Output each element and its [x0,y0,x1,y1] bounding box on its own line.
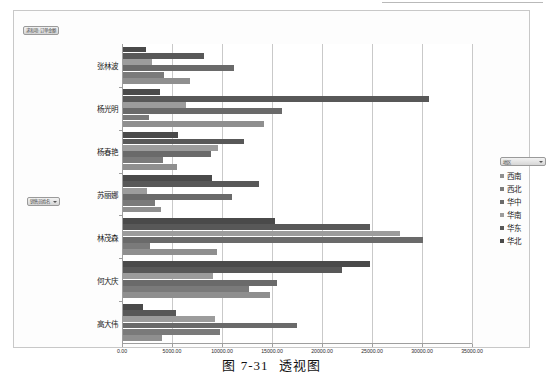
pivot-legend-field-label: 地区 [503,159,511,165]
bar[interactable] [122,72,164,78]
bar[interactable] [122,78,190,84]
legend-swatch-icon [500,213,504,217]
bar[interactable] [122,53,204,59]
gridline [472,44,473,344]
bar[interactable] [122,59,152,65]
category-axis-label: 高大伟 [58,318,118,329]
value-axis-tick-label: 25000.00 [361,348,383,354]
legend-item-label: 西南 [507,170,521,181]
legend-item[interactable]: 西南 [500,169,546,182]
pivot-legend-field-button[interactable]: 地区 [500,157,546,166]
category-axis-tick [119,258,122,259]
figure-caption-number: 图 7-31 [222,358,268,373]
category-axis-tick [119,215,122,216]
bar[interactable] [122,115,149,121]
value-axis-line [122,44,123,344]
legend-swatch-icon [500,200,504,204]
bar[interactable] [122,329,220,335]
bar[interactable] [122,188,147,194]
bar[interactable] [122,164,177,170]
bar[interactable] [122,267,342,273]
bar[interactable] [122,243,150,249]
bar[interactable] [122,292,270,298]
legend-item[interactable]: 华北 [500,234,546,247]
category-axis-tick [119,301,122,302]
bar[interactable] [122,145,218,151]
category-axis-tick [119,130,122,131]
bar[interactable] [122,121,264,127]
figure-caption-title: 透视图 [279,358,321,373]
bar[interactable] [122,151,211,157]
gridline [422,44,423,344]
value-axis-tick [172,344,173,347]
legend-item-label: 西北 [507,183,521,194]
bar[interactable] [122,286,249,292]
pivot-axis-field-button[interactable]: 销售员姓名 [27,197,60,206]
legend-item[interactable]: 华南 [500,208,546,221]
bar[interactable] [122,310,176,316]
legend-item[interactable]: 西北 [500,182,546,195]
bar[interactable] [122,335,162,341]
legend-item-label: 华东 [507,222,521,233]
legend-swatch-icon [500,174,504,178]
bar[interactable] [122,102,186,108]
value-axis-tick-label: 15000.00 [261,348,283,354]
legend-swatch-icon [500,239,504,243]
legend-item-label: 华南 [507,209,521,220]
bar[interactable] [122,181,259,187]
bar[interactable] [122,323,297,329]
bar[interactable] [122,304,143,310]
gridline [322,44,323,344]
category-axis-tick [119,87,122,88]
plot-area [122,44,472,344]
category-axis-tick [119,173,122,174]
bar[interactable] [122,194,232,200]
category-axis-line [122,343,472,344]
bar[interactable] [122,96,429,102]
bar[interactable] [122,175,212,181]
bar[interactable] [122,249,217,255]
value-axis-tick [122,344,123,347]
bar[interactable] [122,65,234,71]
category-axis-label: 林茂森 [58,232,118,243]
figure-caption: 图 7-31透视图 [0,355,543,374]
bar[interactable] [122,200,155,206]
page-top-rule [382,2,543,3]
category-axis-label: 苏丽娜 [58,189,118,200]
bar[interactable] [122,261,370,267]
bar[interactable] [122,47,146,53]
bar[interactable] [122,218,275,224]
bar[interactable] [122,207,161,213]
legend-item[interactable]: 华中 [500,195,546,208]
value-axis-tick [422,344,423,347]
category-axis-label: 何大庆 [58,275,118,286]
pivotchart-frame[interactable]: 求和项:订单金额 销售员姓名 张林波杨光明杨春艳苏丽娜林茂森何大庆高大伟 0.0… [13,10,530,348]
gridline [372,44,373,344]
chevron-down-icon [53,201,57,203]
category-axis-label: 张林波 [58,60,118,71]
bar[interactable] [122,273,213,279]
value-axis-tick-label: 0.00 [117,348,127,354]
legend-items: 西南西北华中华南华东华北 [500,169,546,247]
bar[interactable] [122,89,160,95]
bar[interactable] [122,231,400,237]
legend-swatch-icon [500,187,504,191]
bar[interactable] [122,132,178,138]
pivot-value-field-button[interactable]: 求和项:订单金额 [23,26,59,35]
legend-item-label: 华中 [507,196,521,207]
bar[interactable] [122,157,163,163]
gridline [272,44,273,344]
legend-item-label: 华北 [507,235,521,246]
pivot-value-field-label: 求和项:订单金额 [26,27,56,35]
legend-item[interactable]: 华东 [500,221,546,234]
bar[interactable] [122,280,277,286]
bar[interactable] [122,108,282,114]
bar[interactable] [122,316,215,322]
bar[interactable] [122,139,244,145]
bar[interactable] [122,237,423,243]
bar[interactable] [122,224,370,230]
chevron-down-icon [539,161,543,163]
value-axis-tick [372,344,373,347]
legend-swatch-icon [500,226,504,230]
